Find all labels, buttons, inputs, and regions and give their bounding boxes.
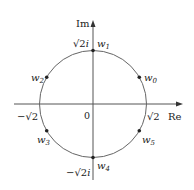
neg-real-intercept-label: −√2 xyxy=(17,111,38,122)
origin-label: 0 xyxy=(84,110,90,121)
imag-axis-label: Im xyxy=(76,18,90,29)
label-w1: w1 xyxy=(97,38,110,51)
imag-axis-arrow-icon xyxy=(91,20,96,27)
label-w5: w5 xyxy=(142,134,156,147)
complex-plane-diagram: Im Re 0 √2i √2 −√2 −√2i w1 w0 w2 w3 w4 w… xyxy=(0,0,194,190)
label-w0: w0 xyxy=(144,72,158,85)
pos-real-intercept-label: √2 xyxy=(147,111,160,122)
point-w3 xyxy=(45,129,49,133)
real-axis-label: Re xyxy=(168,111,182,122)
point-w2 xyxy=(45,75,49,79)
point-w4 xyxy=(91,156,95,160)
point-w5 xyxy=(138,129,142,133)
pos-imag-intercept-label: √2i xyxy=(73,38,89,49)
point-w0 xyxy=(138,75,142,79)
diagram-canvas: Im Re 0 √2i √2 −√2 −√2i w1 w0 w2 w3 w4 w… xyxy=(0,0,194,190)
label-w3: w3 xyxy=(37,134,51,147)
real-axis-arrow-icon xyxy=(176,102,183,107)
point-w1 xyxy=(91,49,95,53)
label-w2: w2 xyxy=(31,72,45,85)
neg-imag-intercept-label: −√2i xyxy=(66,167,90,178)
label-w4: w4 xyxy=(97,160,110,173)
